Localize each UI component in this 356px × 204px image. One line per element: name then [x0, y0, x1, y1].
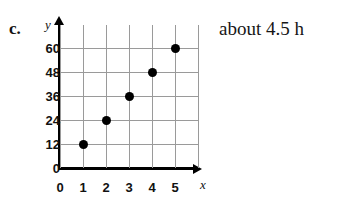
- y-tick-label: 0: [34, 162, 60, 175]
- plot-area: 01224364860012345: [60, 25, 214, 168]
- data-point: [125, 92, 134, 101]
- data-point: [148, 68, 157, 77]
- grid-line-horizontal: [60, 120, 199, 121]
- x-tick-label: 2: [98, 181, 114, 194]
- x-tick-label: 4: [144, 181, 160, 194]
- data-point: [79, 140, 88, 149]
- scatter-plot: y x 01224364860012345: [36, 16, 212, 200]
- y-axis-label: y: [45, 18, 51, 31]
- part-label: c.: [9, 20, 21, 37]
- x-tick-label: 0: [52, 181, 68, 194]
- data-point: [171, 44, 180, 53]
- x-axis-label: x: [200, 178, 206, 191]
- answer-text: about 4.5 h: [219, 18, 304, 40]
- x-tick-label: 3: [121, 181, 137, 194]
- y-tick-label: 12: [34, 138, 60, 151]
- y-tick-label: 36: [34, 90, 60, 103]
- x-tick-label: 1: [75, 181, 91, 194]
- x-tick-label: 5: [167, 181, 183, 194]
- y-tick-label: 48: [34, 66, 60, 79]
- y-tick-label: 60: [34, 42, 60, 55]
- data-point: [102, 116, 111, 125]
- grid-line-horizontal: [60, 72, 199, 73]
- worksheet-figure: c. y x 01224364860012345 about 4.5 h: [0, 0, 356, 204]
- y-tick-label: 24: [34, 114, 60, 127]
- y-axis-arrow-icon: [54, 16, 64, 25]
